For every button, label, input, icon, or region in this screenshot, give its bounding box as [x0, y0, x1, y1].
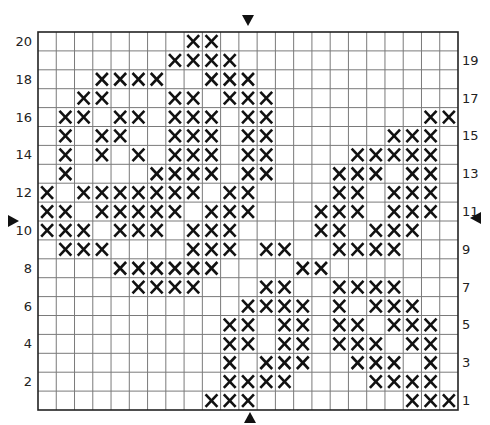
stitch-x-icon [425, 149, 437, 162]
stitch-x-icon [114, 186, 126, 199]
stitch-x-icon [333, 205, 345, 218]
stitch-x-icon [388, 357, 400, 370]
stitch-x-icon [260, 111, 272, 124]
stitch-x-icon [206, 35, 218, 48]
stitch-x-icon [133, 262, 145, 275]
stitch-x-icon [151, 73, 163, 86]
stitch-x-icon [114, 224, 126, 237]
stitch-x-icon [315, 205, 327, 218]
stitch-x-icon [333, 224, 345, 237]
stitch-x-icon [315, 224, 327, 237]
stitch-x-icon [352, 168, 364, 181]
stitch-x-icon [224, 338, 236, 351]
stitch-x-icon [59, 149, 71, 162]
right-center-marker-icon [470, 212, 481, 224]
stitch-x-icon [242, 130, 254, 143]
stitch-x-icon [224, 394, 236, 407]
row-label-1: 1 [462, 394, 470, 407]
stitch-x-icon [224, 205, 236, 218]
stitch-x-icon [114, 73, 126, 86]
row-label-12: 12 [4, 186, 32, 199]
stitch-x-icon [425, 394, 437, 407]
stitch-x-icon [333, 281, 345, 294]
stitch-x-icon [443, 394, 455, 407]
stitch-x-icon [169, 92, 181, 105]
stitch-x-icon [59, 111, 71, 124]
stitch-x-icon [260, 149, 272, 162]
stitch-x-icon [133, 205, 145, 218]
stitch-x-icon [224, 73, 236, 86]
stitch-x-icon [187, 130, 199, 143]
row-label-20: 20 [4, 35, 32, 48]
stitch-x-icon [206, 73, 218, 86]
stitch-x-icon [425, 375, 437, 388]
stitch-x-icon [260, 168, 272, 181]
stitch-x-icon [96, 149, 108, 162]
stitch-x-icon [133, 149, 145, 162]
stitch-x-icon [187, 186, 199, 199]
stitch-x-icon [242, 300, 254, 313]
stitch-x-icon [406, 319, 418, 332]
stitch-x-icon [78, 111, 90, 124]
stitch-x-icon [297, 300, 309, 313]
stitch-x-icon [333, 243, 345, 256]
stitch-x-icon [352, 281, 364, 294]
stitch-x-icon [406, 149, 418, 162]
stitch-x-icon [114, 130, 126, 143]
stitch-x-icon [242, 394, 254, 407]
stitch-x-icon [242, 186, 254, 199]
stitch-x-icon [297, 319, 309, 332]
stitch-x-icon [406, 130, 418, 143]
stitch-x-icon [388, 224, 400, 237]
stitch-x-icon [425, 338, 437, 351]
stitch-x-icon [425, 357, 437, 370]
stitch-x-icon [352, 186, 364, 199]
stitch-x-icon [206, 262, 218, 275]
stitch-x-icon [187, 243, 199, 256]
cross-stitch-chart: 2018161412108642191715131197531 [0, 0, 490, 425]
stitch-x-icon [370, 149, 382, 162]
stitch-x-icon [315, 262, 327, 275]
stitch-x-icon [169, 149, 181, 162]
stitch-x-icon [388, 130, 400, 143]
stitch-x-icon [59, 243, 71, 256]
stitch-x-icon [242, 111, 254, 124]
stitch-x-icon [169, 130, 181, 143]
stitch-x-icon [242, 338, 254, 351]
stitch-x-icon [224, 92, 236, 105]
stitch-x-icon [352, 205, 364, 218]
stitch-x-icon [260, 375, 272, 388]
stitch-x-icon [352, 357, 364, 370]
stitch-x-icon [370, 243, 382, 256]
stitch-x-icon [41, 205, 53, 218]
stitch-x-icon [279, 357, 291, 370]
stitch-x-icon [41, 186, 53, 199]
row-label-2: 2 [4, 375, 32, 388]
stitch-x-icon [425, 168, 437, 181]
stitch-x-icon [242, 168, 254, 181]
stitch-x-icon [333, 338, 345, 351]
stitch-x-icon [59, 130, 71, 143]
stitch-x-icon [425, 205, 437, 218]
stitch-x-icon [224, 319, 236, 332]
row-label-19: 19 [462, 54, 479, 67]
stitch-x-icon [406, 186, 418, 199]
stitch-x-icon [169, 111, 181, 124]
stitch-x-icon [206, 130, 218, 143]
row-label-5: 5 [462, 318, 470, 331]
stitch-x-icon [370, 168, 382, 181]
stitch-x-icon [388, 243, 400, 256]
stitch-x-icon [260, 92, 272, 105]
stitch-x-icon [388, 319, 400, 332]
stitch-x-icon [242, 92, 254, 105]
stitch-x-icon [206, 243, 218, 256]
stitch-x-icon [41, 224, 53, 237]
stitch-x-icon [114, 111, 126, 124]
row-label-14: 14 [4, 148, 32, 161]
stitch-x-icon [224, 243, 236, 256]
stitch-x-icon [59, 224, 71, 237]
stitch-x-icon [169, 262, 181, 275]
stitch-x-icon [297, 357, 309, 370]
stitch-x-icon [388, 205, 400, 218]
stitch-x-icon [425, 186, 437, 199]
